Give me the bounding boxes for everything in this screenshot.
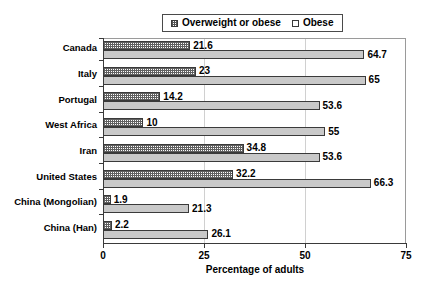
bar-value-china-han-obese: 2.2 [115, 220, 129, 230]
legend-item-obese: Obese [292, 18, 334, 28]
y-tick-5 [99, 163, 103, 164]
legend-label-overweight-or-obese: Overweight or obese [182, 18, 281, 28]
legend-swatch-plain-icon [292, 20, 299, 27]
x-tick-25 [204, 244, 205, 248]
chart-legend: Overweight or obese Obese [162, 14, 343, 32]
y-tick-4 [99, 137, 103, 138]
category-label-china-mongolian: China (Mongolian) [1, 196, 101, 207]
bar-value-china-mongolian-obese: 1.9 [114, 195, 128, 205]
category-label-italy: Italy [1, 68, 101, 79]
category-label-west-africa: West Africa [1, 119, 101, 130]
x-tick-label-50: 50 [299, 250, 310, 261]
bar-value-united-states-obese: 32.2 [236, 169, 255, 179]
bar-value-italy-overweight: 65 [369, 75, 380, 85]
legend-label-obese: Obese [303, 18, 334, 28]
x-axis-line [103, 243, 407, 244]
y-tick-3 [99, 112, 103, 113]
bar-value-canada-overweight: 64.7 [367, 50, 386, 60]
bar-iran-overweight [103, 153, 320, 162]
bar-value-iran-overweight: 53.6 [323, 152, 342, 162]
y-tick-1 [99, 60, 103, 61]
bar-value-portugal-obese: 14.2 [163, 92, 182, 102]
bar-value-iran-obese: 34.8 [247, 143, 266, 153]
bar-italy-overweight [103, 76, 366, 85]
bar-value-west-africa-overweight: 55 [328, 127, 339, 137]
bar-united-states-obese [103, 170, 233, 179]
x-tick-label-25: 25 [198, 250, 209, 261]
category-label-iran: Iran [1, 145, 101, 156]
y-axis-category-labels: Canada Italy Portugal West Africa Iran U… [0, 0, 101, 285]
bar-united-states-overweight [103, 179, 371, 188]
bar-portugal-obese [103, 92, 160, 101]
category-label-canada: Canada [1, 42, 101, 53]
category-label-united-states: United States [1, 171, 101, 182]
bar-china-mongolian-overweight [103, 204, 189, 213]
x-tick-label-0: 0 [100, 250, 106, 261]
x-tick-50 [305, 244, 306, 248]
bar-value-italy-obese: 23 [199, 66, 210, 76]
y-tick-2 [99, 86, 103, 87]
y-tick-6 [99, 189, 103, 190]
bar-portugal-overweight [103, 101, 320, 110]
bar-italy-obese [103, 67, 196, 76]
category-label-portugal: Portugal [1, 94, 101, 105]
x-tick-0 [103, 244, 104, 248]
bar-value-china-han-overweight: 26.1 [211, 229, 230, 239]
chart-container: Overweight or obese Obese Canada Italy P… [0, 0, 426, 285]
bar-value-canada-obese: 21.6 [193, 41, 212, 51]
bar-west-africa-overweight [103, 127, 325, 136]
bar-canada-obese [103, 41, 190, 50]
y-tick-7 [99, 214, 103, 215]
bar-value-west-africa-obese: 10 [146, 118, 157, 128]
bar-iran-obese [103, 144, 244, 153]
x-tick-label-75: 75 [400, 250, 411, 261]
bar-china-mongolian-obese [103, 195, 111, 204]
x-axis-title: Percentage of adults [103, 264, 407, 275]
x-tick-75 [406, 244, 407, 248]
category-label-china-han: China (Han) [1, 222, 101, 233]
legend-swatch-dotted-icon [171, 20, 178, 27]
bar-value-china-mongolian-overweight: 21.3 [192, 204, 211, 214]
bar-west-africa-obese [103, 118, 143, 127]
bar-china-han-overweight [103, 230, 208, 239]
bar-china-han-obese [103, 221, 112, 230]
legend-item-overweight-or-obese: Overweight or obese [171, 18, 281, 28]
bar-canada-overweight [103, 50, 364, 59]
bar-value-portugal-overweight: 53.6 [323, 101, 342, 111]
bar-value-united-states-overweight: 66.3 [374, 178, 393, 188]
gridline-50 [305, 39, 306, 243]
y-tick-0 [99, 38, 103, 39]
